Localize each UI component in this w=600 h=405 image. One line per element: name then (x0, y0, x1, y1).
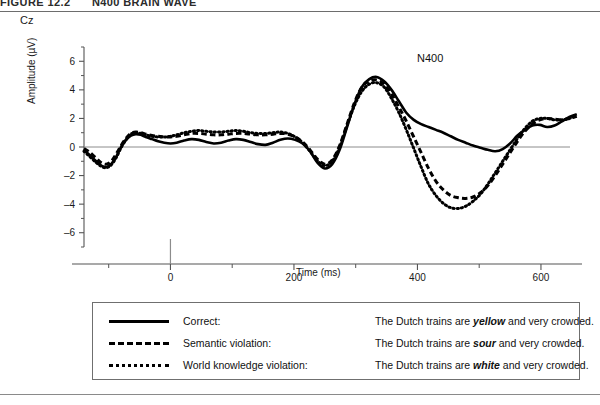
figure-number: FIGURE 12.2 (0, 0, 70, 8)
sentence-critical-word: white (473, 359, 500, 371)
y-tick-label: –4 (64, 199, 76, 210)
erp-waveform-svg: –6–4–202460200400600 (0, 18, 600, 290)
legend-sentence: The Dutch trains are yellow and very cro… (375, 315, 594, 327)
legend-box: Correct: The Dutch trains are yellow and… (92, 302, 580, 380)
sentence-prefix: The Dutch trains are (375, 337, 473, 349)
dashed-line-swatch (103, 337, 175, 349)
sentence-critical-word: sour (473, 337, 496, 349)
x-tick-label: 600 (533, 272, 550, 283)
legend-row: World knowledge violation: The Dutch tra… (93, 354, 581, 376)
legend-sentence: The Dutch trains are sour and very crowd… (375, 337, 585, 349)
legend-row: Correct: The Dutch trains are yellow and… (93, 310, 581, 332)
figure-rule-bottom (0, 394, 600, 395)
erp-trace-dashed (84, 80, 577, 199)
legend-label: World knowledge violation: (183, 359, 375, 371)
y-tick-label: –6 (64, 227, 76, 238)
erp-trace-solid (84, 77, 577, 169)
figure-root: FIGURE 12.2 N400 BRAIN WAVE –6–4–2024602… (0, 0, 600, 405)
x-tick-label: 400 (409, 272, 426, 283)
y-tick-label: 0 (69, 142, 75, 153)
y-axis-title: Amplitude (µV) (26, 38, 37, 104)
legend-label: Correct: (183, 315, 375, 327)
y-tick-label: –2 (64, 170, 76, 181)
legend-sentence: The Dutch trains are white and very crow… (375, 359, 589, 371)
y-tick-label: 2 (69, 113, 75, 124)
y-tick-label: 4 (69, 84, 75, 95)
caption-rule-top (0, 11, 600, 12)
figure-caption: FIGURE 12.2 N400 BRAIN WAVE (0, 0, 600, 10)
erp-plot: –6–4–202460200400600 (0, 18, 600, 290)
figure-title: N400 BRAIN WAVE (92, 0, 197, 8)
x-tick-label: 0 (168, 272, 174, 283)
electrode-label: Cz (20, 14, 33, 26)
y-tick-label: 6 (69, 56, 75, 67)
sentence-prefix: The Dutch trains are (375, 315, 473, 327)
sentence-critical-word: yellow (473, 315, 505, 327)
legend-row: Semantic violation: The Dutch trains are… (93, 332, 581, 354)
solid-line-swatch (103, 315, 175, 327)
x-axis-title: Time (ms) (296, 267, 341, 278)
legend-label: Semantic violation: (183, 337, 375, 349)
sentence-prefix: The Dutch trains are (375, 359, 473, 371)
sentence-suffix: and very crowded. (496, 337, 585, 349)
dotted-line-swatch (103, 359, 175, 371)
sentence-suffix: and very crowded. (505, 315, 594, 327)
sentence-suffix: and very crowded. (500, 359, 589, 371)
n400-annotation: N400 (417, 52, 443, 64)
erp-trace-dotted (84, 83, 577, 209)
